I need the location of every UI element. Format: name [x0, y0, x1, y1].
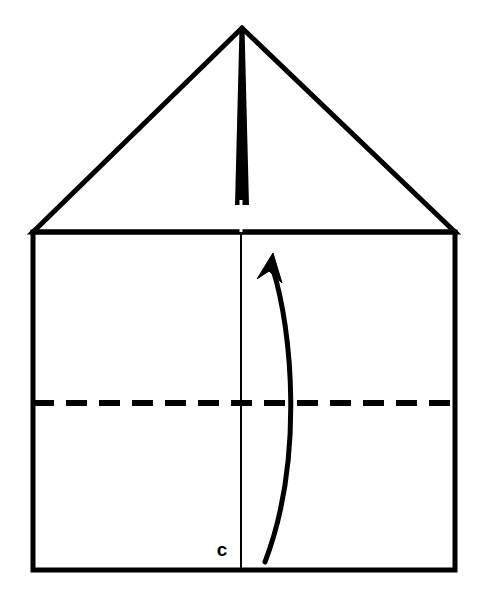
diagram-drawing: c	[0, 0, 488, 606]
center-slot-notch	[240, 200, 243, 232]
origami-diagram-canvas: c	[0, 0, 488, 606]
point-c-label: c	[217, 539, 228, 560]
